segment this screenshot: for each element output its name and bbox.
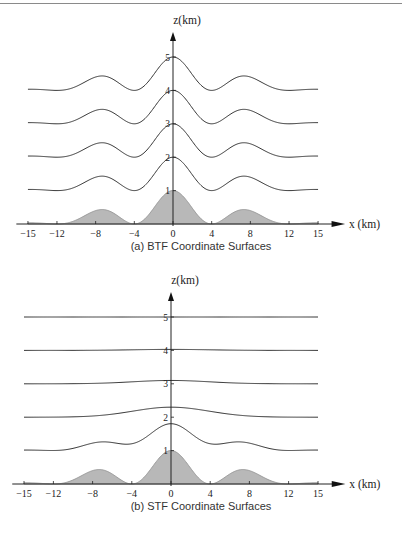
x-tick-label: −4 [126, 488, 137, 499]
x-tick-label: 4 [209, 228, 214, 239]
x-tick-label: −15 [20, 228, 36, 239]
x-tick-label: 12 [284, 488, 294, 499]
z-axis-label: z(km) [173, 14, 201, 27]
x-tick-label: −4 [129, 228, 140, 239]
z-tick-label: 5 [165, 53, 170, 63]
z-tick-label: 3 [165, 119, 170, 129]
z-axis-label: z(km) [171, 274, 199, 287]
z-tick-label: 3 [163, 379, 168, 389]
caption-b: (b) STF Coordinate Surfaces [0, 500, 402, 512]
x-axis-label: x (km) [349, 478, 380, 491]
x-tick-label: 8 [248, 228, 253, 239]
x-axis-arrow-icon [332, 221, 346, 227]
panel-b-stf: −15−12−8−4048121512345z(km)x (km) [12, 274, 380, 499]
z-axis-arrow-icon [170, 32, 176, 41]
figure-canvas: −15−12−8−4048121512345z(km)x (km) −15−12… [0, 0, 402, 534]
x-tick-label: 0 [169, 488, 174, 499]
caption-a: (a) BTF Coordinate Surfaces [0, 240, 402, 252]
x-tick-label: −15 [16, 488, 32, 499]
x-axis-label: x (km) [349, 218, 380, 231]
x-tick-label: −8 [90, 228, 101, 239]
z-tick-label: 1 [165, 186, 170, 196]
z-tick-label: 5 [163, 313, 168, 323]
panel-a-btf: −15−12−8−4048121512345z(km)x (km) [16, 14, 380, 239]
x-tick-label: 8 [247, 488, 252, 499]
z-axis-arrow-icon [168, 292, 174, 301]
x-tick-label: 15 [313, 228, 323, 239]
x-tick-label: 0 [171, 228, 176, 239]
x-tick-label: 4 [208, 488, 213, 499]
z-tick-label: 2 [165, 153, 170, 163]
z-tick-label: 4 [163, 346, 168, 356]
x-tick-label: 12 [284, 228, 294, 239]
z-tick-label: 2 [163, 413, 168, 423]
x-tick-label: −12 [46, 488, 62, 499]
x-axis-arrow-icon [332, 481, 346, 487]
x-tick-label: −8 [87, 488, 98, 499]
z-tick-label: 4 [165, 86, 170, 96]
z-tick-label: 1 [163, 446, 168, 456]
x-tick-label: 15 [313, 488, 323, 499]
x-tick-label: −12 [49, 228, 65, 239]
